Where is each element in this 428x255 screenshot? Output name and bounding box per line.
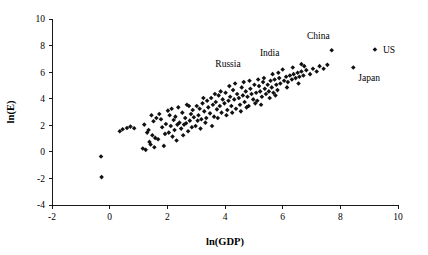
point-label-china: China [307,31,330,41]
data-point [274,82,279,87]
x-tick-label: 4 [223,212,228,222]
data-point [269,85,274,90]
data-point [238,102,243,107]
data-point [164,122,169,127]
data-point [216,93,221,98]
data-point [261,80,266,85]
data-point [311,67,316,72]
data-point [248,86,253,91]
data-point [245,94,250,99]
data-point [301,73,306,78]
data-point [242,100,247,105]
data-point [264,92,269,97]
data-point [213,100,218,105]
data-point [218,104,223,109]
data-point [205,98,210,103]
data-point [168,124,173,129]
y-tick-label: 0 [40,147,45,157]
point-label-russia: Russia [215,59,241,69]
data-point [150,133,155,138]
y-tick-label: 6 [40,68,45,78]
data-point [304,68,309,73]
data-point [272,77,277,82]
data-point [201,96,206,101]
data-point [154,116,159,121]
y-axis: -4-20246810 [36,14,53,210]
data-point [180,110,185,115]
y-tick-label: -4 [37,200,45,210]
data-point [285,85,290,90]
data-point [282,78,287,83]
data-point [160,125,165,130]
data-point [290,77,295,82]
data-point [163,132,168,137]
data-point [234,106,239,111]
annotated-data-point [329,48,334,53]
data-point [228,94,233,99]
data-point [308,72,313,77]
data-point [194,104,199,109]
x-tick-label: 0 [107,212,112,222]
data-point [230,110,235,115]
data-point [275,88,280,93]
x-tick-label: 6 [280,212,285,222]
data-point [224,113,229,118]
data-point [174,138,179,143]
data-point [203,120,208,125]
data-point [297,74,302,79]
data-point [258,89,263,94]
data-point [223,90,228,95]
x-tick-label: -2 [48,212,56,222]
data-point [241,80,246,85]
x-tick-label: 10 [393,212,403,222]
data-point [179,126,184,131]
data-point [314,69,319,74]
data-point [166,130,171,135]
data-point [197,106,202,111]
point-label-us: US [383,45,395,55]
data-point [176,105,181,110]
data-point [262,86,267,91]
data-point [142,122,147,127]
data-point [189,112,194,117]
data-point [166,108,171,113]
data-point [188,118,193,123]
y-tick-label: 8 [40,41,45,51]
data-point [232,97,237,102]
data-point [99,154,104,159]
data-point [267,89,272,94]
x-tick-label: 8 [338,212,343,222]
data-point [199,117,204,122]
data-point [270,72,275,77]
data-point [204,116,209,121]
data-point [259,102,264,107]
data-point [295,71,300,76]
data-point [186,129,191,134]
data-point [220,97,225,102]
data-point [213,92,218,97]
data-point [233,81,238,86]
data-point [278,81,283,86]
data-point [190,108,195,113]
data-point [206,105,211,110]
data-point [243,89,248,94]
data-point [149,113,154,118]
data-point [229,104,234,109]
data-point [249,92,254,97]
data-point [198,126,203,131]
data-point [195,118,200,123]
data-point [284,74,289,79]
data-point [193,124,198,129]
data-point [290,65,295,70]
data-point [321,67,326,72]
data-point [226,98,231,103]
data-point [183,116,188,121]
x-axis-title: ln(GDP) [206,236,244,248]
data-point [239,109,244,114]
data-point [231,88,236,93]
data-point [277,76,282,81]
data-point [239,85,244,90]
data-point [291,72,296,77]
data-point [152,145,157,150]
y-axis-title: ln(E) [5,100,17,123]
